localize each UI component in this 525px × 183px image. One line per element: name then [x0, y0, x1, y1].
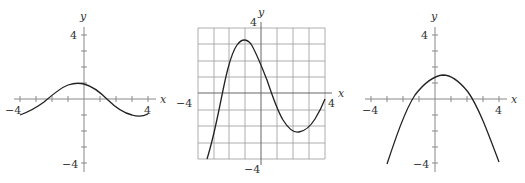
x-tick-label-neg4: −4 [362, 104, 378, 117]
x-tick-label-4: 4 [144, 104, 151, 117]
middle-panel: y x 4 −4 −4 4 [176, 6, 345, 176]
x-tick-label-neg4: −4 [5, 104, 21, 117]
y-axis-label: y [257, 6, 265, 19]
y-axis-label: y [79, 10, 87, 23]
y-tick-label-4: 4 [250, 16, 257, 29]
y-tick-label-4: 4 [70, 29, 77, 42]
figure: y x 4 −4 −4 4 y x 4 −4 −4 4 [0, 0, 525, 183]
y-axis-label: y [430, 10, 438, 23]
x-tick-label-4: 4 [495, 104, 502, 117]
x-tick-label-neg4: −4 [176, 97, 192, 110]
x-axis-label: x [160, 93, 167, 106]
curve-middle [207, 40, 325, 159]
curve-right [387, 75, 499, 164]
x-axis-label: x [511, 93, 518, 106]
y-tick-label-neg4: −4 [62, 158, 78, 171]
x-tick-label-4: 4 [328, 97, 335, 110]
y-tick-label-neg4: −4 [413, 158, 429, 171]
right-panel: y x 4 −4 −4 4 [362, 10, 518, 172]
y-tick-label-neg4: −4 [244, 163, 260, 176]
left-panel: y x 4 −4 −4 4 [5, 10, 167, 172]
x-axis-label: x [338, 87, 345, 100]
y-tick-label-4: 4 [421, 29, 428, 42]
